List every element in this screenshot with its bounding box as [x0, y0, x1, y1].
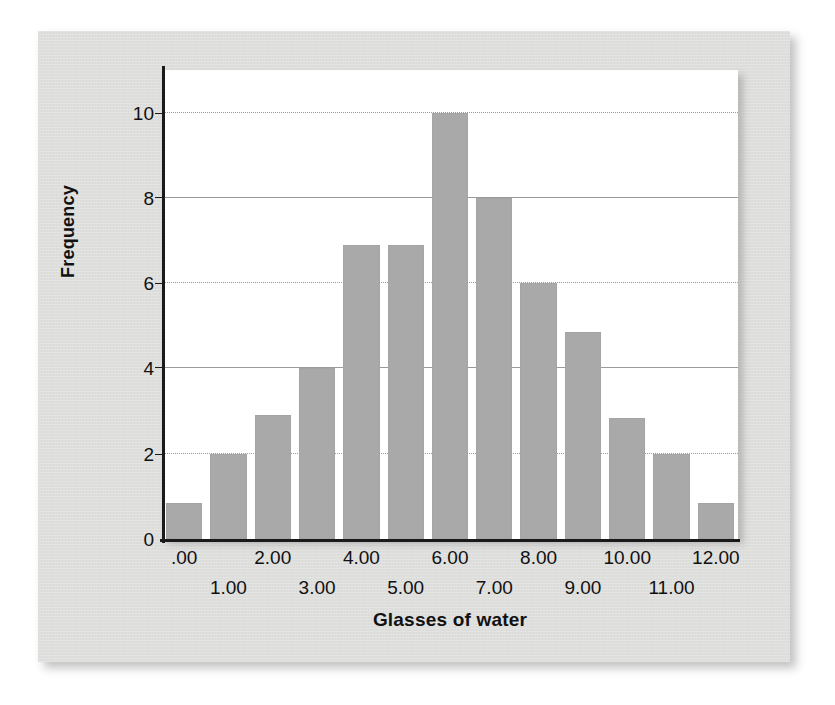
plot-area — [162, 70, 738, 539]
xtick-label-6: 6.00 — [432, 548, 469, 567]
bar-1 — [210, 454, 246, 539]
bar-4 — [343, 245, 379, 539]
histogram-card: 0 2 4 6 8 10 Frequency .00 1.00 2.00 3.0… — [38, 31, 790, 662]
ytick-label-10: 10 — [133, 103, 154, 122]
y-axis-line — [162, 66, 165, 543]
xtick-label-1: 1.00 — [210, 578, 247, 597]
x-axis-title: Glasses of water — [162, 609, 738, 631]
xtick-label-7: 7.00 — [476, 578, 513, 597]
y-axis-tick-labels: 0 2 4 6 8 10 — [112, 70, 154, 539]
bar-series — [162, 70, 738, 539]
bar-12 — [698, 503, 734, 539]
ytick-mark-6 — [155, 283, 162, 284]
bar-5 — [388, 245, 424, 539]
xtick-label-10: 10.00 — [603, 548, 651, 567]
ytick-label-0: 0 — [143, 530, 154, 549]
bar-7 — [476, 198, 512, 539]
ytick-label-6: 6 — [143, 274, 154, 293]
ytick-mark-2 — [155, 454, 162, 455]
x-axis-tick-labels: .00 1.00 2.00 3.00 4.00 5.00 6.00 7.00 8… — [162, 544, 738, 614]
ytick-mark-10 — [155, 113, 162, 114]
xtick-label-11: 11.00 — [648, 578, 694, 597]
x-axis-line — [160, 539, 740, 542]
xtick-label-9: 9.00 — [564, 578, 601, 597]
ytick-label-4: 4 — [143, 359, 154, 378]
bar-11 — [653, 454, 689, 539]
bar-8 — [520, 283, 556, 539]
xtick-label-2: 2.00 — [254, 548, 291, 567]
xtick-label-8: 8.00 — [520, 548, 557, 567]
bar-10 — [609, 418, 645, 540]
xtick-label-0: .00 — [171, 548, 197, 567]
bar-6 — [432, 113, 468, 539]
xtick-label-3: 3.00 — [299, 578, 336, 597]
bar-0 — [166, 503, 202, 539]
y-axis-title: Frequency — [58, 185, 79, 278]
bar-2 — [255, 415, 291, 539]
bar-9 — [565, 332, 601, 539]
xtick-label-4: 4.00 — [343, 548, 380, 567]
ytick-label-8: 8 — [143, 188, 154, 207]
ytick-label-2: 2 — [143, 444, 154, 463]
ytick-mark-8 — [155, 197, 162, 198]
xtick-label-12: 12.00 — [692, 548, 740, 567]
xtick-label-5: 5.00 — [387, 578, 424, 597]
ytick-mark-4 — [155, 367, 162, 368]
bar-3 — [299, 368, 335, 539]
